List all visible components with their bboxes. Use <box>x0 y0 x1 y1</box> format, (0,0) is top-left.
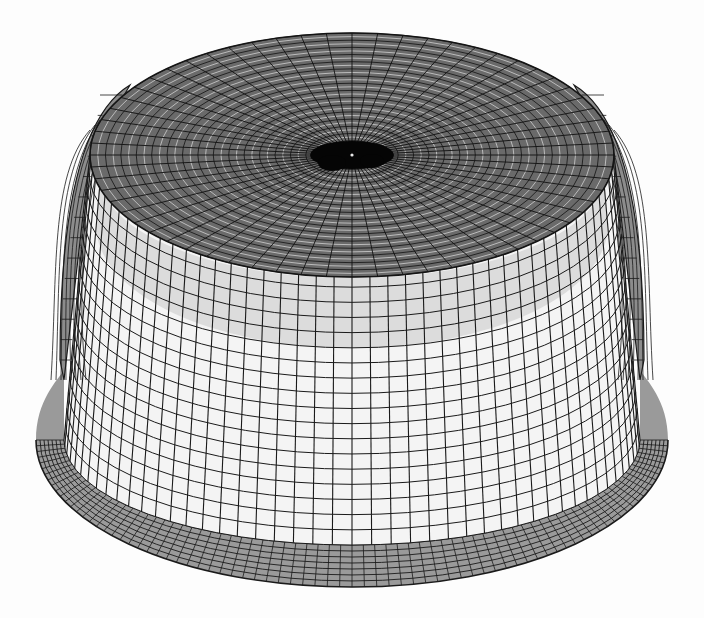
mesh-figure: finite element wireframe mesh of a flang… <box>0 0 704 618</box>
fe-mesh-wireframe <box>0 0 704 618</box>
